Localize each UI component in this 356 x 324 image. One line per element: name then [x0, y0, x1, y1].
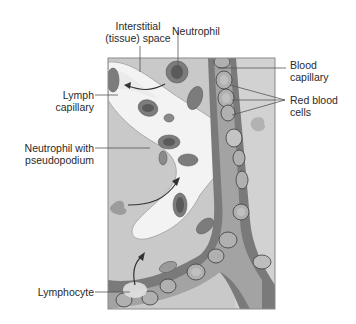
label-neutrophil: Neutrophil	[172, 25, 220, 37]
label-rbc-line2: cells	[290, 106, 338, 118]
label-neutrophil-pseudo-line1: Neutrophil with	[10, 142, 94, 154]
label-interstitial-space: Interstitial (tissue) space	[96, 20, 180, 44]
label-interstitial-line1: Interstitial	[96, 20, 180, 32]
label-lymph-line1: Lymph	[40, 89, 94, 101]
label-lymph-line2: capillary	[40, 101, 94, 113]
label-blood-capillary: Blood capillary	[290, 59, 329, 83]
label-red-blood-cells: Red blood cells	[290, 94, 338, 118]
label-lymphocyte: Lymphocyte	[20, 286, 94, 298]
label-neutrophil-text: Neutrophil	[172, 25, 220, 37]
label-lymphocyte-text: Lymphocyte	[38, 286, 94, 298]
label-neutrophil-pseudo-line2: pseudopodium	[10, 154, 94, 166]
label-lymph-capillary: Lymph capillary	[40, 89, 94, 113]
label-neutrophil-pseudopodium: Neutrophil with pseudopodium	[10, 142, 94, 166]
label-blood-line1: Blood	[290, 59, 329, 71]
label-interstitial-line2: (tissue) space	[96, 32, 180, 44]
label-blood-line2: capillary	[290, 71, 329, 83]
label-rbc-line1: Red blood	[290, 94, 338, 106]
